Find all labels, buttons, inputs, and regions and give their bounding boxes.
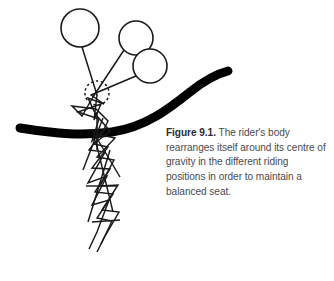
rider-position-2	[72, 97, 119, 252]
torso-position-1	[82, 47, 97, 95]
figure-caption: Figure 9.1. The rider's body rearranges …	[166, 126, 330, 200]
torso-position-3	[91, 76, 136, 95]
rider-figures-group	[72, 95, 120, 252]
leg-line-f	[92, 220, 120, 222]
head-position-3	[133, 49, 167, 83]
rider-heads-group	[61, 9, 167, 83]
head-position-1	[61, 9, 99, 47]
figure-caption-label: Figure 9.1.	[166, 127, 216, 138]
figure-page: Figure 9.1. The rider's body rearranges …	[0, 0, 334, 281]
